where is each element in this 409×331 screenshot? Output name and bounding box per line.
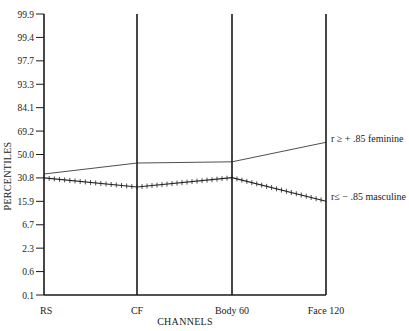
- channel-axes: [44, 14, 326, 295]
- legend-feminine: r ≥ + .85 feminine: [331, 133, 404, 144]
- x-category-label: CF: [131, 305, 144, 316]
- percentile-line-chart: 99.999.497.793.384.169.250.030.815.96.72…: [0, 0, 409, 331]
- y-tick-label: 50.0: [17, 150, 34, 160]
- y-tick-label: 2.3: [22, 244, 34, 254]
- legend-masculine: r≤ − .85 masculine: [331, 191, 407, 202]
- data-series: [44, 142, 326, 202]
- y-tick-label: 99.4: [17, 33, 34, 43]
- x-axis-category-labels: RSCFBody 60Face 120: [40, 305, 344, 316]
- y-tick-label: 97.7: [17, 56, 34, 66]
- y-tick-label: 93.3: [17, 80, 34, 90]
- masculine-line: [44, 178, 326, 202]
- y-tick-label: 15.9: [17, 197, 34, 207]
- y-axis-ticks: 99.999.497.793.384.169.250.030.815.96.72…: [17, 10, 44, 301]
- y-tick-label: 0.6: [22, 267, 34, 277]
- x-category-label: Face 120: [308, 305, 344, 316]
- x-axis-title: CHANNELS: [157, 316, 213, 327]
- y-tick-label: 69.2: [17, 127, 34, 137]
- y-tick-label: 99.9: [17, 10, 34, 20]
- y-axis-title: PERCENTILES: [2, 142, 13, 211]
- feminine-line: [44, 142, 326, 174]
- y-tick-label: 6.7: [22, 220, 34, 230]
- x-category-label: Body 60: [215, 305, 249, 316]
- y-tick-label: 84.1: [17, 103, 34, 113]
- x-category-label: RS: [40, 305, 52, 316]
- y-tick-label: 0.1: [22, 291, 34, 301]
- y-tick-label: 30.8: [17, 173, 34, 183]
